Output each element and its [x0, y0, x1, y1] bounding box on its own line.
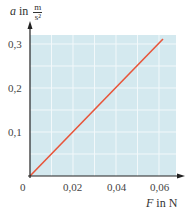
x-tick-label: 0,06 — [150, 181, 169, 193]
x-axis-arrow-icon — [177, 174, 185, 179]
y-unit: ms² — [33, 3, 42, 22]
y-tick-label: 0,1 — [8, 126, 22, 138]
y-tick-label: 0,2 — [8, 82, 22, 94]
x-in-text: in N — [153, 196, 177, 210]
y-axis-arrow-icon — [28, 21, 33, 29]
x-axis-title: F in N — [146, 196, 177, 211]
y-in-text: in — [16, 4, 31, 18]
x-tick-label: 0,02 — [63, 181, 82, 193]
chart: a in ms² 0,3 0,2 0,1 0 0,02 0,04 0,06 F … — [0, 0, 193, 215]
x-tick-label: 0,04 — [107, 181, 126, 193]
origin-label: 0 — [20, 181, 26, 193]
y-axis-title: a in ms² — [10, 3, 42, 22]
y-tick-label: 0,3 — [8, 38, 22, 50]
y-unit-denominator: s² — [33, 13, 42, 22]
